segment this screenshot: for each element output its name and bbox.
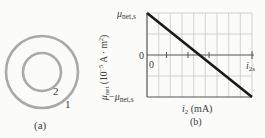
- y-tick-zero: 0: [139, 50, 144, 61]
- y-axis-title: μnet (10−5 A · m2): [97, 35, 111, 101]
- x-tick-origin: 0: [149, 59, 154, 70]
- y-tick-bottom: −μnet,s: [109, 91, 134, 104]
- x-tick-end: i2s: [246, 60, 255, 73]
- x-axis-title: i2 (mA): [182, 103, 212, 116]
- panel-b-caption: (b): [190, 116, 202, 128]
- outer-loop-label: 1: [65, 98, 71, 110]
- y-tick-top: μnet,s: [116, 8, 136, 21]
- panel-a-caption: (a): [34, 119, 47, 132]
- panel-a: 2 1 (a): [6, 36, 78, 132]
- figure: 2 1 (a): [0, 0, 265, 138]
- inner-loop-label: 2: [53, 85, 59, 97]
- panel-b: μnet,s 0 −μnet,s 0 i2s μnet (10−5 A · m2…: [97, 8, 255, 128]
